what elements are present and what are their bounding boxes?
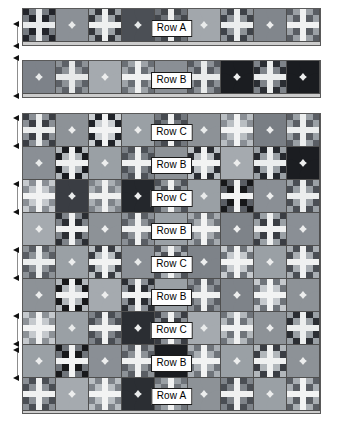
quilt-block-cell[interactable] [254, 246, 287, 279]
quilt-block-cell[interactable] [221, 312, 254, 345]
quilt-block-cell[interactable] [254, 147, 287, 180]
quilt-block-cell[interactable] [254, 378, 287, 411]
cross-block-patch [214, 87, 220, 93]
quilt-block-cell[interactable] [188, 378, 221, 411]
quilt-block-cell[interactable] [221, 147, 254, 180]
quilt-main-grid[interactable]: Row CRow BRow CRow BRow CRow BRow CRow B… [22, 113, 321, 414]
quilt-block-cell[interactable] [56, 180, 89, 213]
quilt-block-cell[interactable] [23, 378, 56, 411]
quilt-block-cell[interactable] [188, 345, 221, 378]
quilt-block-cell[interactable] [23, 345, 56, 378]
row-a-strip[interactable]: Row A [22, 8, 321, 46]
quilt-block-cell[interactable] [221, 180, 254, 213]
cross-block-patch [115, 404, 121, 410]
quilt-block-cell[interactable] [287, 61, 320, 94]
cross-block-patch [49, 140, 55, 146]
quilt-block-cell[interactable] [23, 9, 56, 42]
cross-block-patch [214, 239, 220, 245]
quilt-block-cell[interactable] [56, 114, 89, 147]
curved-block [254, 246, 286, 278]
quilt-block-cell[interactable] [287, 345, 320, 378]
quilt-block-cell[interactable] [188, 147, 221, 180]
quilt-block-cell[interactable] [188, 213, 221, 246]
quilt-block-cell[interactable] [287, 147, 320, 180]
quilt-block-cell[interactable] [221, 9, 254, 42]
quilt-block-cell[interactable] [188, 279, 221, 312]
quilt-block-cell[interactable] [23, 180, 56, 213]
quilt-block-cell[interactable] [287, 279, 320, 312]
quilt-block-cell[interactable] [89, 114, 122, 147]
cross-block-patch [313, 140, 319, 146]
cross-block [122, 213, 154, 245]
quilt-block-cell[interactable] [89, 9, 122, 42]
quilt-block-cell[interactable] [287, 114, 320, 147]
quilt-block-cell[interactable] [254, 114, 287, 147]
quilt-block-cell[interactable] [89, 180, 122, 213]
curved-block [122, 180, 154, 212]
quilt-block-cell[interactable] [89, 246, 122, 279]
quilt-block-cell[interactable] [56, 9, 89, 42]
quilt-block-cell[interactable] [287, 378, 320, 411]
quilt-block-cell[interactable] [254, 312, 287, 345]
quilt-block-cell[interactable] [89, 213, 122, 246]
quilt-block-cell[interactable] [56, 279, 89, 312]
arrow-icon [13, 181, 19, 187]
quilt-block-cell[interactable] [188, 312, 221, 345]
quilt-block-cell[interactable] [287, 213, 320, 246]
quilt-block-cell[interactable] [188, 114, 221, 147]
quilt-block-cell[interactable] [56, 61, 89, 94]
quilt-block-cell[interactable] [89, 345, 122, 378]
cross-block-patch [49, 338, 55, 344]
quilt-block-cell[interactable] [23, 312, 56, 345]
quilt-block-cell[interactable] [287, 180, 320, 213]
quilt-block-cell[interactable] [23, 114, 56, 147]
quilt-block-cell[interactable] [188, 9, 221, 42]
quilt-block-cell[interactable] [23, 246, 56, 279]
quilt-block-cell[interactable] [254, 213, 287, 246]
quilt-block-cell[interactable] [188, 61, 221, 94]
quilt-block-cell[interactable] [56, 378, 89, 411]
quilt-block-cell[interactable] [89, 147, 122, 180]
measure-line [17, 56, 18, 98]
quilt-block-cell[interactable] [188, 180, 221, 213]
quilt-block-cell[interactable] [287, 246, 320, 279]
quilt-block-cell[interactable] [221, 279, 254, 312]
cross-block [56, 279, 88, 311]
cross-block [221, 246, 253, 278]
quilt-block-cell[interactable] [254, 345, 287, 378]
quilt-block-cell[interactable] [221, 114, 254, 147]
curved-block [254, 9, 286, 41]
cross-block [188, 61, 220, 93]
quilt-block-cell[interactable] [254, 9, 287, 42]
cross-block [221, 9, 253, 41]
quilt-block-cell[interactable] [287, 9, 320, 42]
quilt-block-cell[interactable] [221, 378, 254, 411]
quilt-block-cell[interactable] [188, 246, 221, 279]
quilt-block-cell[interactable] [23, 279, 56, 312]
quilt-block-cell[interactable] [254, 61, 287, 94]
row-b-strip[interactable]: Row B [22, 60, 321, 98]
quilt-block-cell[interactable] [56, 246, 89, 279]
quilt-block-cell[interactable] [56, 147, 89, 180]
row-b-strip-label: Row B [151, 72, 193, 89]
quilt-block-cell[interactable] [221, 246, 254, 279]
curved-block [122, 246, 154, 278]
quilt-block-cell[interactable] [56, 312, 89, 345]
quilt-block-cell[interactable] [23, 61, 56, 94]
quilt-block-cell[interactable] [221, 61, 254, 94]
grid-row-label: Row B [151, 157, 193, 174]
quilt-block-cell[interactable] [89, 61, 122, 94]
quilt-block-cell[interactable] [23, 213, 56, 246]
quilt-block-cell[interactable] [89, 378, 122, 411]
quilt-block-cell[interactable] [56, 345, 89, 378]
quilt-block-cell[interactable] [254, 279, 287, 312]
quilt-block-cell[interactable] [89, 312, 122, 345]
quilt-block-cell[interactable] [254, 180, 287, 213]
cross-block [122, 147, 154, 179]
quilt-block-cell[interactable] [56, 213, 89, 246]
quilt-block-cell[interactable] [89, 279, 122, 312]
quilt-block-cell[interactable] [287, 312, 320, 345]
quilt-block-cell[interactable] [221, 345, 254, 378]
quilt-block-cell[interactable] [23, 147, 56, 180]
quilt-block-cell[interactable] [221, 213, 254, 246]
